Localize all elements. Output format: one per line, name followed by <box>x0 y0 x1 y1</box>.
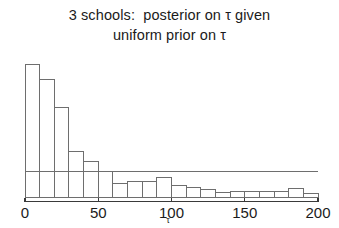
histogram-bar <box>142 182 157 197</box>
histogram-bar <box>274 192 289 197</box>
histogram-bar <box>186 187 201 197</box>
histogram-bar <box>289 188 304 197</box>
histogram-bar <box>215 192 230 197</box>
histogram-bar <box>157 178 172 197</box>
histogram-bar <box>201 189 216 197</box>
histogram-bar <box>245 191 260 197</box>
histogram-bar <box>84 162 99 197</box>
figure-panel: 3 schools: posterior on τ given uniform … <box>0 0 339 228</box>
histogram-bar <box>259 191 274 197</box>
x-axis-tick-label: 150 <box>232 204 257 221</box>
histogram-bar <box>230 191 245 197</box>
x-axis-tick-label: 100 <box>159 204 184 221</box>
histogram-bar <box>40 79 55 197</box>
x-axis <box>25 198 318 202</box>
x-axis-tick-labels: 050100150200 <box>21 204 331 221</box>
histogram-bar <box>54 107 69 197</box>
x-axis-tick-label: 0 <box>21 204 29 221</box>
histogram-plot: 050100150200 τ <box>0 0 339 228</box>
x-axis-title: τ <box>166 215 170 225</box>
histogram-bar <box>113 183 128 197</box>
histogram-bar <box>69 151 84 197</box>
histogram-bar <box>172 186 187 197</box>
histogram-bar <box>25 64 40 197</box>
histogram-bars <box>25 64 318 197</box>
x-axis-tick-label: 50 <box>90 204 107 221</box>
x-axis-tick-label: 200 <box>305 204 330 221</box>
histogram-bar <box>128 182 143 197</box>
histogram-bar <box>303 193 318 197</box>
histogram-bar <box>98 171 113 197</box>
